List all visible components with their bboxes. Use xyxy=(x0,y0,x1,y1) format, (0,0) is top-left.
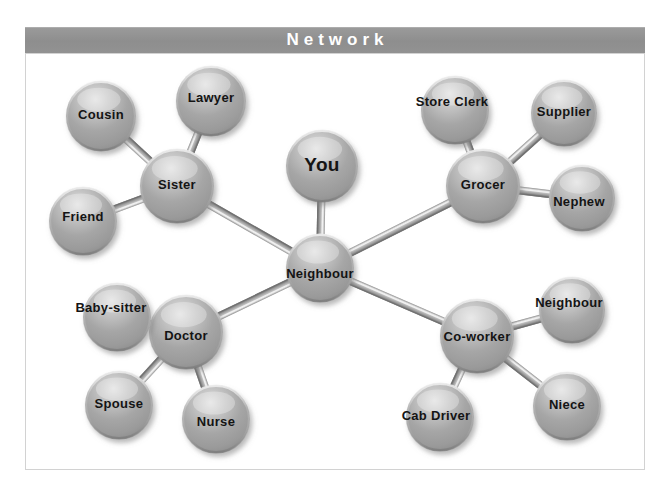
nodes-layer: YouNeighbourSisterGrocerDoctorCo-workerC… xyxy=(49,66,615,453)
node-label: Cousin xyxy=(78,107,124,122)
node-label: Supplier xyxy=(537,104,591,119)
edge-neighbour_hub-to-co_worker xyxy=(346,276,448,326)
node-label: Nurse xyxy=(197,414,235,429)
edge-highlight xyxy=(504,355,545,387)
node-label: Neighbour xyxy=(286,266,354,281)
edge-shadow xyxy=(348,203,455,258)
node-gloss xyxy=(161,302,207,327)
node-label: Neighbour xyxy=(535,295,603,310)
node-cousin[interactable]: Cousin xyxy=(66,81,136,151)
edge-shadow xyxy=(509,134,545,167)
node-label: Grocer xyxy=(461,177,505,192)
node-lawyer[interactable]: Lawyer xyxy=(176,66,246,136)
node-label: You xyxy=(304,154,339,175)
edge-tube xyxy=(501,353,546,391)
node-label: Lawyer xyxy=(188,90,235,105)
node-label: Doctor xyxy=(164,328,208,343)
node-gloss xyxy=(297,240,339,263)
node-neighbour_hub[interactable]: Neighbour xyxy=(286,234,354,302)
edge-neighbour_hub-to-grocer xyxy=(345,197,455,258)
node-neighbour_2[interactable]: Neighbour xyxy=(535,277,605,343)
node-label: Baby-sitter xyxy=(75,300,146,315)
node-sister[interactable]: Sister xyxy=(140,149,214,223)
node-niece[interactable]: Niece xyxy=(533,372,601,440)
edge-co_worker-to-niece xyxy=(501,353,546,391)
node-co_worker[interactable]: Co-worker xyxy=(440,299,514,373)
node-you[interactable]: You xyxy=(286,130,358,202)
node-label: Cab Driver xyxy=(402,408,471,423)
node-gloss xyxy=(560,171,601,193)
node-baby_sitter[interactable]: Baby-sitter xyxy=(75,283,151,351)
edge-highlight xyxy=(122,138,152,166)
edge-you-to-neighbour_hub xyxy=(317,198,326,238)
node-store_clerk[interactable]: Store Clerk xyxy=(416,76,489,144)
edge-highlight xyxy=(216,282,294,320)
node-cab_driver[interactable]: Cab Driver xyxy=(402,383,474,451)
edge-highlight xyxy=(346,199,453,254)
edge-highlight xyxy=(140,357,165,384)
node-label: Friend xyxy=(62,209,104,224)
edge-shadow xyxy=(346,282,446,326)
node-label: Co-worker xyxy=(444,329,511,344)
node-label: Niece xyxy=(549,397,585,412)
network-canvas: YouNeighbourSisterGrocerDoctorCo-workerC… xyxy=(0,0,670,493)
edge-shadow xyxy=(207,199,296,251)
edge-neighbour_hub-to-sister xyxy=(204,199,296,257)
node-label: Sister xyxy=(158,177,196,192)
edge-shadow xyxy=(214,277,292,315)
node-label: Spouse xyxy=(95,396,144,411)
node-nurse[interactable]: Nurse xyxy=(182,385,250,453)
node-supplier[interactable]: Supplier xyxy=(531,80,597,146)
node-friend[interactable]: Friend xyxy=(49,187,117,255)
node-doctor[interactable]: Doctor xyxy=(149,295,223,369)
node-gloss xyxy=(193,391,235,414)
edge-highlight xyxy=(205,203,294,255)
edge-highlight xyxy=(506,131,542,163)
network-diagram-page: Network xyxy=(0,0,670,493)
node-nephew[interactable]: Nephew xyxy=(549,165,615,231)
edge-highlight xyxy=(348,278,448,322)
node-spouse[interactable]: Spouse xyxy=(85,371,153,439)
node-grocer[interactable]: Grocer xyxy=(446,149,520,223)
node-label: Nephew xyxy=(553,194,605,209)
edge-neighbour_hub-to-doctor xyxy=(214,277,295,321)
node-gloss xyxy=(452,306,498,331)
node-label: Store Clerk xyxy=(416,94,489,109)
edge-shadow xyxy=(501,358,542,390)
edge-grocer-to-nephew xyxy=(515,186,553,198)
